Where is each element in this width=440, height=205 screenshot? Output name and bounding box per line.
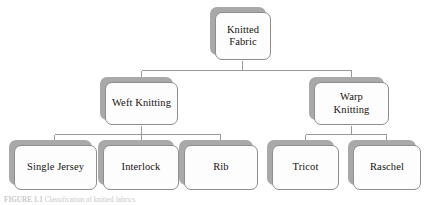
node-label: Warp Knitting	[315, 91, 388, 116]
figure-caption: FIGURE 1.1 Classification of knitted fab…	[4, 196, 434, 205]
node-label: Tricot	[273, 161, 338, 174]
node-label: Weft Knitting	[106, 97, 177, 110]
node-card: Raschel	[353, 145, 421, 190]
node-single-jersey[interactable]: Single Jersey	[14, 145, 97, 190]
node-card: Rib	[184, 145, 258, 190]
node-label: Single Jersey	[15, 161, 96, 174]
node-raschel[interactable]: Raschel	[353, 145, 421, 190]
node-knitted-fabric[interactable]: Knitted Fabric	[215, 12, 271, 60]
node-label: Raschel	[354, 161, 420, 174]
node-label: Knitted Fabric	[216, 24, 270, 49]
figure-caption-label: FIGURE 1.1	[4, 196, 43, 204]
node-card: Single Jersey	[14, 145, 97, 190]
node-card: Weft Knitting	[105, 82, 178, 125]
node-card: Interlock	[103, 145, 179, 190]
node-card: Tricot	[272, 145, 339, 190]
node-warp-knitting[interactable]: Warp Knitting	[314, 82, 389, 125]
node-interlock[interactable]: Interlock	[103, 145, 179, 190]
node-card: Warp Knitting	[314, 82, 389, 125]
figure-container: Knitted Fabric Weft Knitting Warp Knitti…	[0, 0, 440, 205]
node-rib[interactable]: Rib	[184, 145, 258, 190]
node-label: Rib	[185, 161, 257, 174]
figure-caption-text: Classification of knitted fabrics.	[45, 196, 137, 204]
node-tricot[interactable]: Tricot	[272, 145, 339, 190]
node-weft-knitting[interactable]: Weft Knitting	[105, 82, 178, 125]
node-label: Interlock	[104, 161, 178, 174]
node-card: Knitted Fabric	[215, 12, 271, 60]
